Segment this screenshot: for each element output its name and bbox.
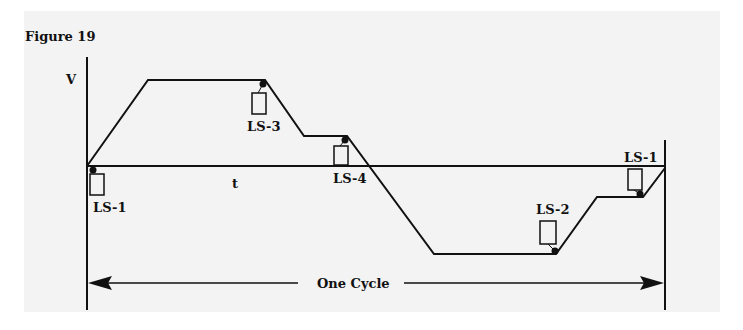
figure-title: Figure 19: [25, 29, 95, 44]
limit-switch-ls4: LS-4: [333, 137, 366, 187]
t-axis-label: t: [232, 176, 238, 191]
limit-switch-ls2: LS-2: [536, 202, 569, 255]
limit-switch-ls3: LS-3: [247, 81, 280, 135]
ls4-label: LS-4: [333, 171, 366, 186]
limit-switch-ls1-start: LS-1: [90, 167, 127, 216]
one-cycle-arrow: One Cycle: [88, 276, 664, 291]
ls1-end-label: LS-1: [624, 150, 657, 165]
limit-switch-ls1-end: LS-1: [624, 150, 657, 198]
ls3-label: LS-3: [247, 119, 280, 134]
ls2-label: LS-2: [536, 202, 569, 217]
ls1-start-label: LS-1: [93, 200, 126, 215]
one-cycle-label: One Cycle: [317, 276, 390, 291]
v-axis-label: V: [65, 72, 77, 87]
velocity-cycle-diagram: Figure 19 V t LS-1 LS-3 LS-4 LS-2 LS-1: [0, 0, 743, 330]
